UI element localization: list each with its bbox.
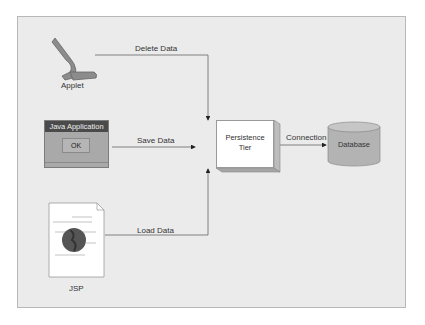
persistence-label-line2: Tier bbox=[217, 143, 273, 153]
applet-icon bbox=[52, 38, 97, 80]
window-footer-divider bbox=[45, 162, 108, 163]
load-data-label: Load Data bbox=[137, 226, 174, 235]
delete-data-label: Delete Data bbox=[135, 44, 177, 53]
save-data-label: Save Data bbox=[137, 136, 174, 145]
jsp-document-icon bbox=[49, 203, 104, 277]
connection-label: Connection bbox=[286, 133, 326, 142]
delete-data-arrow bbox=[95, 55, 208, 120]
java-application-title: Java Application bbox=[45, 121, 108, 132]
persistence-tier-box: Persistence Tier bbox=[216, 120, 274, 168]
java-application-window: Java Application OK bbox=[44, 120, 109, 168]
ok-button[interactable]: OK bbox=[62, 138, 90, 153]
database-label: Database bbox=[328, 140, 380, 149]
jsp-label: JSP bbox=[69, 284, 84, 293]
persistence-label-line1: Persistence bbox=[217, 133, 273, 143]
applet-label: Applet bbox=[61, 81, 84, 90]
